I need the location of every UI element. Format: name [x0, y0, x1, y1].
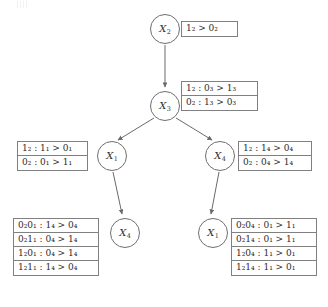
- cpt-level1: 1₂ : 0₃ > 1₃ 0₂ : 1₃ > 0₃: [181, 81, 258, 111]
- cpt-row: 1₂ : 1₄ > 0₄: [239, 142, 311, 156]
- cpt-level2-left: 1₂ : 1₁ > 0₁ 0₂ : 0₁ > 1₁: [17, 141, 88, 171]
- edge-level1-to-level2-right: [176, 118, 212, 140]
- edge-level2-left-to-leaf-left: [113, 172, 122, 214]
- cpt-row: 0₂ : 0₁ > 1₁: [18, 156, 87, 170]
- node-level1[interactable]: X3: [150, 91, 180, 121]
- cpt-row: 0₂0₄ : 0₁ > 1₁: [232, 219, 316, 233]
- node-level2-left[interactable]: X1: [97, 141, 127, 171]
- cpt-leaf-right: 0₂0₄ : 0₁ > 1₁ 0₂1₄ : 0₁ > 1₁ 1₂0₄ : 1₁ …: [231, 218, 317, 276]
- node-leaf-right[interactable]: X1: [198, 218, 228, 248]
- node-level1-label: X3: [159, 101, 171, 111]
- node-root-label: X2: [159, 24, 171, 34]
- node-level2-right-label: X4: [214, 151, 226, 161]
- cpt-row: 1₂ > 0₂: [182, 22, 237, 36]
- cpt-row: 0₂ : 1₃ > 0₃: [182, 96, 257, 110]
- cpt-level2-right: 1₂ : 1₄ > 0₄ 0₂ : 0₄ > 1₄: [238, 141, 312, 171]
- cpt-row: 0₂1₄ : 0₁ > 1₁: [232, 233, 316, 247]
- node-level2-right[interactable]: X4: [205, 141, 235, 171]
- diagram-canvas: X2 X3 X1 X4 X4 X1 1₂ > 0₂ 1₂ : 0₃ > 1₃ 0…: [0, 0, 328, 307]
- cpt-row: 1₂ : 1₁ > 0₁: [18, 142, 87, 156]
- edge-level2-right-to-leaf-right: [211, 172, 219, 214]
- cpt-row: 1₂1₄ : 1₁ > 0₁: [232, 261, 316, 275]
- cpt-row: 1₂1₁ : 1₄ > 0₄: [14, 261, 98, 275]
- node-leaf-left-label: X4: [119, 228, 131, 238]
- cpt-row: 0₂ : 0₄ > 1₄: [239, 156, 311, 170]
- node-root[interactable]: X2: [150, 14, 180, 44]
- cpt-row: 1₂0₄ : 1₁ > 0₁: [232, 247, 316, 261]
- cpt-root: 1₂ > 0₂: [181, 21, 238, 37]
- cpt-row: 1₂0₁ : 0₄ > 1₄: [14, 247, 98, 261]
- edge-level1-to-level2-left: [118, 118, 154, 140]
- cpt-row: 1₂ : 0₃ > 1₃: [182, 82, 257, 96]
- cpt-row: 0₂0₁ : 1₄ > 0₄: [14, 219, 98, 233]
- cpt-row: 0₂1₁ : 0₄ > 1₄: [14, 233, 98, 247]
- node-leaf-right-label: X1: [207, 228, 219, 238]
- node-level2-left-label: X1: [106, 151, 118, 161]
- cpt-leaf-left: 0₂0₁ : 1₄ > 0₄ 0₂1₁ : 0₄ > 1₄ 1₂0₁ : 0₄ …: [13, 218, 99, 276]
- node-leaf-left[interactable]: X4: [110, 218, 140, 248]
